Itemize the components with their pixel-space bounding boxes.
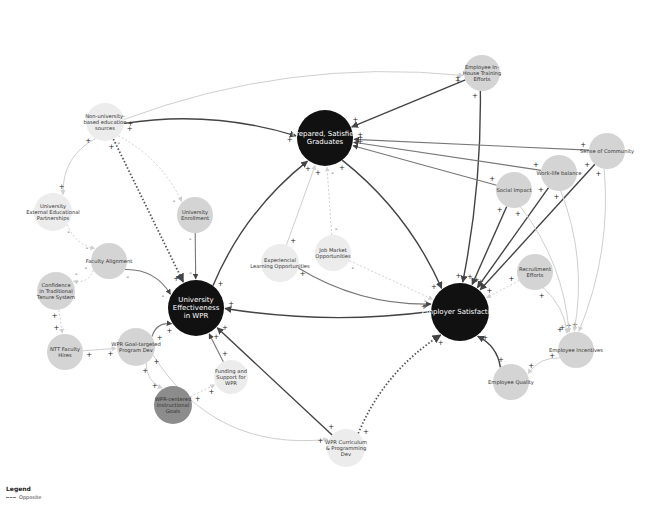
polarity-sign: + <box>515 210 521 218</box>
edge-community-to-graduates <box>354 139 589 150</box>
node-incentives[interactable]: Employee Incentives <box>549 332 603 368</box>
polarity-sign: - <box>75 270 78 278</box>
polarity-sign: + <box>305 165 311 173</box>
edge-experiential-to-employer <box>298 268 431 304</box>
edge-nonuni-to-extpart <box>63 138 96 194</box>
polarity-sign: + <box>127 120 133 128</box>
edge-employer-to-effectiveness <box>225 308 431 317</box>
node-training[interactable]: Employee In-House TrainingEfforts <box>463 55 501 91</box>
polarity-sign: + <box>107 350 113 358</box>
causal-loop-diagram: ++++--++----++++----++++++++++++++++++++… <box>0 0 662 520</box>
polarity-sign: - <box>173 197 176 205</box>
node-label: Dev <box>341 451 351 457</box>
node-label: Efforts <box>474 76 491 82</box>
node-label: Graduates <box>307 138 344 146</box>
polarity-sign: + <box>300 270 306 278</box>
node-label: University <box>178 296 213 304</box>
node-label: WPR <box>225 380 237 386</box>
node-instgoals[interactable]: WPR-centeredInstructionalGoals <box>154 386 192 424</box>
node-social[interactable]: Social Impact <box>496 172 532 208</box>
polarity-sign: + <box>152 382 158 390</box>
polarity-sign: + <box>290 237 296 245</box>
node-label: Goals <box>166 408 181 414</box>
node-label: in WPR <box>184 312 209 320</box>
polarity-sign: + <box>228 300 234 308</box>
node-label: Efforts <box>527 272 544 278</box>
node-label: Enrollment <box>181 215 209 221</box>
node-quality[interactable]: Employee Quality <box>488 364 534 400</box>
polarity-sign: + <box>363 428 369 436</box>
polarity-sign: + <box>509 275 515 283</box>
polarity-sign: + <box>553 193 559 201</box>
polarity-sign: - <box>331 169 334 177</box>
polarity-sign: + <box>482 334 488 342</box>
polarity-sign: + <box>486 287 492 295</box>
polarity-sign: + <box>489 175 495 183</box>
node-enrollment[interactable]: UniversityEnrollment <box>177 197 213 233</box>
polarity-sign: + <box>328 423 334 431</box>
polarity-sign: + <box>533 161 539 169</box>
node-effectiveness[interactable]: UniversityEffectivenessin WPR <box>168 280 224 336</box>
polarity-sign: + <box>472 92 478 100</box>
node-extpart[interactable]: UniversityExternal EducationalPartnershi… <box>26 193 80 231</box>
node-label: Faculty Alignment <box>86 258 133 265</box>
node-label: Social Impact <box>497 187 532 194</box>
polarity-sign: + <box>209 388 215 396</box>
legend-item-label: Opposite <box>19 494 41 500</box>
node-label: Opportunities <box>315 253 351 260</box>
polarity-sign: + <box>85 137 91 145</box>
polarity-sign: + <box>357 138 363 146</box>
node-label: Learning Opportunities <box>250 263 310 270</box>
polarity-sign: + <box>53 324 59 332</box>
node-nonuni[interactable]: Non-university-based educationsources <box>83 103 126 141</box>
node-label: Prepared, Satisfied <box>292 130 358 138</box>
edge-jobmarket-to-employer <box>349 261 432 300</box>
polarity-sign: + <box>438 339 444 347</box>
polarity-sign: - <box>126 273 129 281</box>
node-label: Employee Quality <box>488 379 534 386</box>
edge-social-to-graduates <box>353 146 497 186</box>
polarity-sign: + <box>497 206 503 214</box>
polarity-sign: + <box>538 186 544 194</box>
edge-jobmarket-to-graduates <box>327 167 332 235</box>
node-label: Program Dev <box>119 347 153 354</box>
edge-nonuni-to-training <box>124 72 463 120</box>
polarity-sign: - <box>189 235 192 243</box>
polarity-sign: + <box>166 327 172 335</box>
node-jobmarket[interactable]: Job MarketOpportunities <box>315 235 351 271</box>
polarity-sign: + <box>52 312 58 320</box>
polarity-sign: + <box>539 292 545 300</box>
node-graduates[interactable]: Prepared, SatisfiedGraduates <box>292 110 358 166</box>
polarity-sign: + <box>142 367 148 375</box>
polarity-sign: + <box>213 333 219 341</box>
dashed-line-icon <box>6 497 16 498</box>
polarity-sign: + <box>59 183 65 191</box>
edge-social-to-employer <box>472 206 507 284</box>
legend: Legend Opposite <box>6 485 41 500</box>
polarity-sign: + <box>431 283 437 291</box>
node-recruitment[interactable]: RecruitmentEfforts <box>517 254 553 290</box>
polarity-sign: + <box>559 324 565 332</box>
node-funding[interactable]: Funding andSupport forWPR <box>214 360 248 394</box>
polarity-sign: + <box>584 161 590 169</box>
polarity-sign: + <box>222 350 228 358</box>
polarity-sign: - <box>86 244 89 252</box>
node-tenure[interactable]: Confidencein TraditionalTenure System <box>36 272 75 310</box>
edge-experiential-to-graduates <box>286 165 315 245</box>
polarity-sign: - <box>162 292 165 300</box>
polarity-sign: + <box>86 351 92 359</box>
polarity-sign: + <box>195 395 201 403</box>
node-label: Sense of Community <box>580 148 634 155</box>
polarity-sign: - <box>118 139 121 147</box>
edge-extpart-to-faculty <box>67 225 94 249</box>
edge-training-to-employer <box>463 91 481 282</box>
polarity-sign: + <box>549 352 555 360</box>
polarity-sign: + <box>352 116 358 124</box>
polarity-sign: + <box>317 437 323 445</box>
edge-training-to-graduates <box>352 80 466 127</box>
legend-item-opposite: Opposite <box>6 494 41 500</box>
polarity-sign: + <box>339 164 345 172</box>
node-ntt[interactable]: NTT FacultyHires <box>47 334 83 370</box>
polarity-sign: - <box>351 264 354 272</box>
polarity-sign: - <box>84 264 87 272</box>
